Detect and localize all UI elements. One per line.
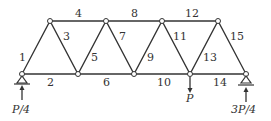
member-label: 11 bbox=[173, 30, 187, 43]
member-label: 8 bbox=[131, 7, 138, 20]
web-members bbox=[22, 21, 246, 74]
member-label: 6 bbox=[103, 76, 110, 89]
member-label: 7 bbox=[119, 30, 126, 43]
member-labels: 1 2 3 4 5 6 7 8 9 10 11 12 13 14 15 bbox=[19, 7, 244, 89]
member-label: 1 bbox=[19, 51, 26, 64]
left-reaction-label: P/4 bbox=[11, 103, 30, 116]
right-support-icon bbox=[238, 76, 254, 85]
truss-diagram: 1 2 3 4 5 6 7 8 9 10 11 12 13 14 15 P/4 … bbox=[0, 0, 271, 121]
load-labels: P/4 P 3P/4 bbox=[11, 92, 256, 116]
truss-members bbox=[22, 21, 246, 74]
member-label: 12 bbox=[185, 7, 199, 20]
applied-load-label: P bbox=[185, 92, 194, 105]
member-label: 10 bbox=[157, 76, 171, 89]
member-label: 14 bbox=[213, 76, 227, 89]
member-label: 15 bbox=[230, 30, 244, 43]
left-support-icon bbox=[14, 76, 30, 84]
member-label: 2 bbox=[47, 76, 54, 89]
member-label: 13 bbox=[203, 51, 217, 64]
member-label: 9 bbox=[147, 51, 154, 64]
right-reaction-label: 3P/4 bbox=[231, 103, 256, 116]
member-label: 4 bbox=[75, 7, 82, 20]
member-label: 3 bbox=[63, 30, 70, 43]
member-label: 5 bbox=[91, 51, 98, 64]
